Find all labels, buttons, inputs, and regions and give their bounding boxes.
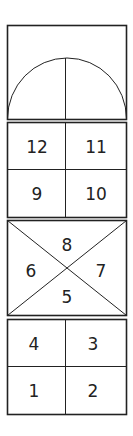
cell-label: 1	[29, 381, 40, 401]
cell-label: 9	[32, 184, 43, 204]
cell-label: 7	[96, 261, 107, 281]
cell-label: 12	[26, 137, 48, 157]
grid-top-panel: 12 11 9 10	[7, 122, 127, 218]
cell-label: 3	[88, 334, 99, 354]
x-box-panel: 8 6 7 5	[8, 221, 127, 316]
cell-label: 2	[88, 381, 99, 401]
cell-label: 5	[62, 287, 73, 307]
arch-panel	[8, 26, 127, 120]
cell-label: 10	[85, 184, 107, 204]
cell-label: 4	[29, 334, 40, 354]
cell-label: 11	[85, 137, 107, 157]
grid-bottom-panel: 4 3 1 2	[7, 319, 127, 415]
hopscotch-diagram: 12 11 9 10 8 6 7 5 4 3 1 2	[0, 0, 133, 436]
cell-label: 6	[26, 261, 37, 281]
cell-label: 8	[62, 235, 73, 255]
